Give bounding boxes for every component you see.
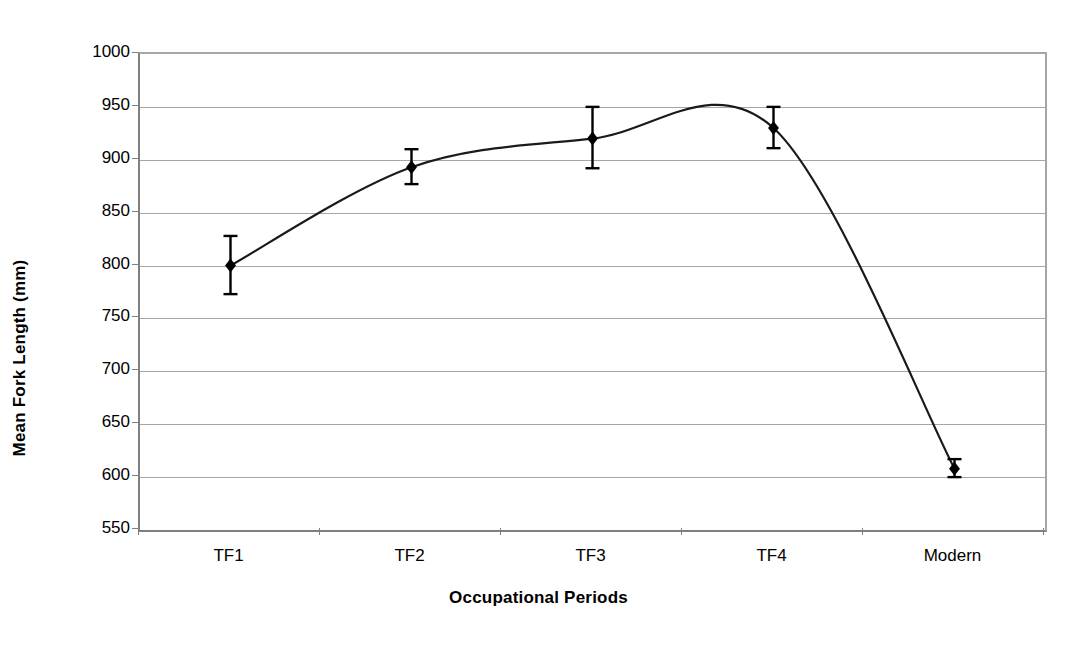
data-series-layer — [140, 54, 1045, 530]
x-axis-title: Occupational Periods — [0, 588, 1077, 608]
y-axis-tick-label: 750 — [60, 306, 130, 326]
x-axis-tick-label: TF2 — [394, 546, 424, 566]
x-axis-tick-label: TF4 — [756, 546, 786, 566]
x-axis-tick-mark — [500, 528, 501, 535]
x-axis-tick-label: TF1 — [213, 546, 243, 566]
data-point-group — [948, 459, 962, 477]
x-axis-tick-label: TF3 — [575, 546, 605, 566]
y-axis-tick-label: 950 — [60, 95, 130, 115]
x-axis-title-text: Occupational Periods — [449, 588, 628, 607]
y-axis-title-text: Mean Fork Length (mm) — [10, 260, 30, 457]
y-axis-tick-label: 800 — [60, 254, 130, 274]
data-point-group — [224, 236, 238, 294]
x-axis-tick-label: Modern — [924, 546, 982, 566]
y-axis-tick-label: 1000 — [60, 42, 130, 62]
y-axis-tick-label: 700 — [60, 359, 130, 379]
y-axis-tick-label: 850 — [60, 201, 130, 221]
plot-area — [138, 52, 1047, 532]
y-axis-title: Mean Fork Length (mm) — [0, 0, 40, 646]
data-point-marker — [587, 132, 598, 146]
data-point-marker — [949, 462, 960, 476]
x-axis-tick-mark — [1043, 528, 1044, 535]
y-axis-tick-label: 550 — [60, 518, 130, 538]
x-axis-tick-mark — [319, 528, 320, 535]
data-point-group — [767, 107, 781, 148]
y-axis-tick-label: 900 — [60, 148, 130, 168]
data-point-group — [405, 149, 419, 184]
data-point-marker — [225, 259, 236, 273]
x-axis-tick-mark — [862, 528, 863, 535]
chart-container: Mean Fork Length (mm) 550600650700750800… — [0, 0, 1077, 646]
x-axis-tick-mark — [138, 528, 139, 535]
x-axis-tick-mark — [681, 528, 682, 535]
y-axis-tick-label: 650 — [60, 412, 130, 432]
data-point-marker — [406, 160, 417, 174]
y-axis-tick-label: 600 — [60, 465, 130, 485]
